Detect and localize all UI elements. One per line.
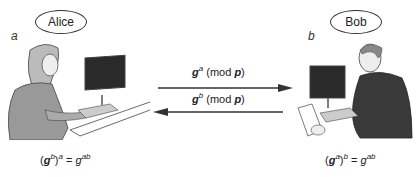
- bob-formula: (ga)b = gab: [325, 152, 376, 166]
- message-bob-to-alice: gb (mod p): [192, 91, 245, 105]
- bob-name-bubble: Bob: [330, 10, 382, 34]
- alice-name: Alice: [48, 15, 74, 29]
- bob-figure-icon: [290, 38, 419, 148]
- message-alice-to-bob: ga (mod p): [192, 64, 245, 78]
- alice-formula: (gb)a = gab: [40, 152, 91, 166]
- bob-name: Bob: [345, 15, 366, 29]
- alice-name-bubble: Alice: [35, 10, 87, 34]
- arrow-left-icon: [153, 107, 288, 117]
- alice-figure-icon: [0, 40, 160, 140]
